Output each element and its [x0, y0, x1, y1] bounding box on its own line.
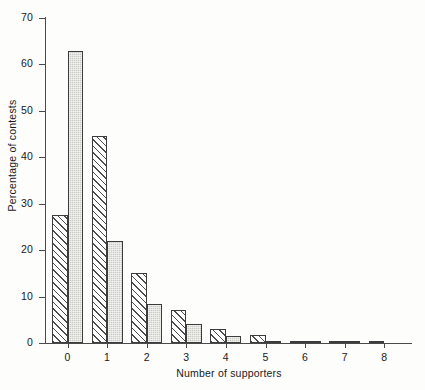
x-axis-tick-mark [305, 343, 306, 348]
y-axis-tick-label: 40 [5, 151, 33, 162]
x-axis-tick-label: 4 [214, 352, 238, 363]
y-axis-tick-mark [39, 297, 46, 298]
x-axis-tick-mark [226, 343, 227, 348]
x-axis-tick-mark [266, 343, 267, 348]
bar-hatched-1 [92, 136, 108, 343]
x-axis-tick-label: 2 [135, 352, 159, 363]
x-axis-tick-label: 6 [293, 352, 317, 363]
y-axis-tick-label: 20 [5, 244, 33, 255]
bar-hatched-3 [171, 310, 187, 343]
bar-shaded-1 [107, 241, 123, 343]
y-axis-tick-label: 30 [5, 198, 33, 209]
bar-hatched-5 [250, 335, 266, 343]
bar-shaded-5 [266, 341, 282, 343]
x-axis-line [45, 343, 412, 344]
y-axis-tick-mark [39, 157, 46, 158]
y-axis-tick-label: 60 [5, 58, 33, 69]
y-axis-tick-mark [39, 18, 46, 19]
x-axis-tick-mark [345, 343, 346, 348]
x-axis-tick-mark [384, 343, 385, 348]
y-axis-tick-label: 0 [5, 337, 33, 348]
y-axis-tick-mark [39, 204, 46, 205]
x-axis-tick-label: 5 [254, 352, 278, 363]
bar-hatched-6 [290, 341, 306, 343]
bar-hatched-0 [52, 215, 68, 343]
x-axis-tick-mark [186, 343, 187, 348]
y-axis-tick-mark [39, 343, 46, 344]
bar-shaded-7 [345, 341, 361, 343]
y-axis-tick-mark [39, 111, 46, 112]
bar-shaded-2 [147, 304, 163, 343]
x-axis-tick-mark [147, 343, 148, 348]
x-axis-tick-label: 8 [372, 352, 396, 363]
y-axis-tick-label: 50 [5, 105, 33, 116]
x-axis-tick-label: 7 [333, 352, 357, 363]
x-axis-tick-label: 1 [95, 352, 119, 363]
y-axis-tick-label: 10 [5, 291, 33, 302]
bar-hatched-2 [131, 273, 147, 343]
x-axis-tick-label: 0 [56, 352, 80, 363]
x-axis-tick-mark [68, 343, 69, 348]
bar-hatched-8 [369, 341, 385, 343]
x-axis-tick-label: 3 [174, 352, 198, 363]
y-axis-tick-mark [39, 250, 46, 251]
bar-shaded-3 [186, 324, 202, 343]
bar-hatched-7 [329, 341, 345, 343]
bar-shaded-6 [305, 341, 321, 343]
bar-shaded-0 [68, 51, 84, 344]
y-axis-tick-mark [39, 64, 46, 65]
x-axis-tick-mark [107, 343, 108, 348]
bar-shaded-4 [226, 336, 242, 343]
plot-area [46, 18, 412, 343]
y-axis-tick-label: 70 [5, 12, 33, 23]
x-axis-title: Number of supporters [46, 368, 412, 379]
bar-hatched-4 [210, 329, 226, 343]
histogram-figure: Percentage of contests 010203040506070 0… [0, 0, 425, 390]
